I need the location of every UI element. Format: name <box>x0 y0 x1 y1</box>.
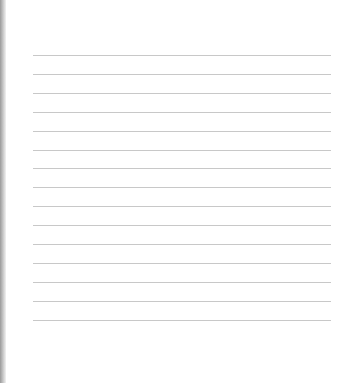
ruled-line <box>33 263 331 264</box>
ruled-line <box>33 93 331 94</box>
ruled-line <box>33 301 331 302</box>
ruled-line <box>33 187 331 188</box>
ruled-line <box>33 131 331 132</box>
ruled-line <box>33 74 331 75</box>
ruled-line <box>33 55 331 56</box>
ruled-line <box>33 112 331 113</box>
ruled-line <box>33 244 331 245</box>
ruled-line <box>33 206 331 207</box>
ruled-line <box>33 225 331 226</box>
lined-paper-sheet <box>6 0 351 383</box>
ruled-line <box>33 282 331 283</box>
ruled-line <box>33 150 331 151</box>
ruled-line <box>33 168 331 169</box>
ruled-line <box>33 320 331 321</box>
